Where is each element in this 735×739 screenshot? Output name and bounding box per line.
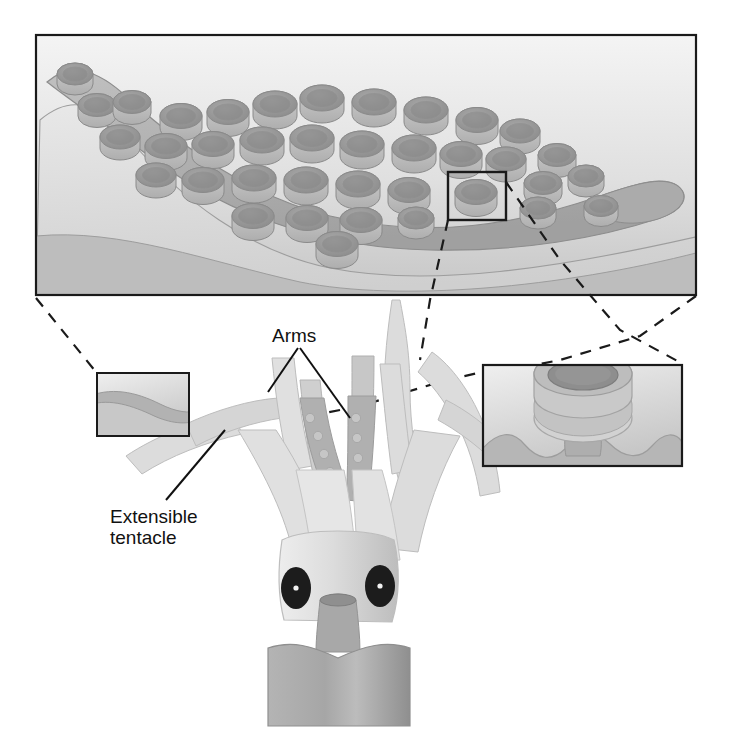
eye-left-highlight bbox=[293, 585, 298, 590]
sucker bbox=[404, 97, 448, 135]
leader-main-to-outline-inset bbox=[36, 298, 96, 372]
sucker bbox=[316, 232, 358, 269]
sucker bbox=[78, 94, 116, 128]
funnel-opening bbox=[320, 594, 356, 606]
single-sucker-detail-inset bbox=[483, 352, 682, 466]
sucker bbox=[192, 132, 234, 169]
tentacle-club-outline-inset bbox=[85, 373, 198, 438]
sucker bbox=[57, 63, 93, 95]
sucker bbox=[520, 197, 556, 229]
sucker bbox=[392, 135, 436, 173]
sucker bbox=[300, 85, 344, 123]
sucker bbox=[232, 203, 274, 240]
sucker bbox=[456, 107, 498, 144]
sucker bbox=[253, 91, 297, 129]
tentacle-club-detail-panel bbox=[36, 35, 700, 300]
sucker bbox=[584, 196, 618, 227]
leader-panel-to-sucker-inset bbox=[500, 296, 696, 372]
label-extensible-tentacle: Extensible tentacle bbox=[110, 506, 198, 548]
sucker bbox=[352, 89, 396, 127]
sucker bbox=[240, 127, 284, 165]
sucker-highlighted bbox=[455, 180, 497, 217]
eye-right-highlight bbox=[377, 583, 382, 588]
sucker bbox=[398, 207, 434, 239]
sucker bbox=[336, 171, 380, 209]
sucker bbox=[113, 91, 151, 125]
sucker bbox=[182, 168, 224, 205]
sucker bbox=[232, 165, 276, 203]
sucker bbox=[207, 100, 249, 137]
label-arms: Arms bbox=[272, 325, 316, 346]
sucker bbox=[284, 167, 328, 205]
sucker bbox=[568, 165, 604, 197]
squid-anatomy-figure: Arms Extensible tentacle bbox=[0, 0, 735, 739]
sucker bbox=[340, 131, 384, 169]
diagram-canvas bbox=[0, 0, 735, 739]
sucker-aperture-inner bbox=[555, 363, 611, 385]
sucker bbox=[100, 125, 140, 160]
sucker bbox=[136, 163, 176, 198]
mantle bbox=[268, 644, 410, 726]
sucker bbox=[290, 125, 334, 163]
